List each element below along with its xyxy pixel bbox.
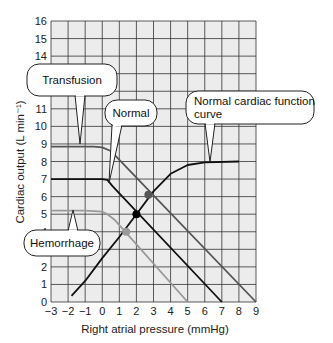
x-axis-ticks: −3−2−10123456789 (45, 305, 259, 317)
equilibrium-point-hemorrhage (122, 228, 130, 236)
y-tick-label: 7 (41, 173, 47, 185)
y-tick-label: 2 (41, 261, 47, 273)
callout-join (206, 122, 214, 125)
x-tick-label: 5 (185, 305, 191, 317)
x-tick-label: 3 (150, 305, 156, 317)
y-tick-label: 11 (36, 103, 47, 115)
x-tick-label: −1 (79, 305, 92, 317)
x-axis-label: Right atrial pressure (mmHg) (81, 323, 229, 335)
callout-text: Normal cardiac function (194, 95, 315, 107)
callout-join (113, 124, 121, 127)
y-tick-label: 5 (41, 208, 47, 220)
callout-join (76, 94, 84, 97)
x-tick-label: 6 (202, 305, 208, 317)
y-tick-label: 8 (41, 156, 47, 168)
x-tick-label: 9 (253, 305, 259, 317)
x-tick-label: 4 (168, 305, 174, 317)
y-tick-label: 9 (41, 138, 47, 150)
callout-join (69, 230, 77, 233)
equilibrium-point-transfusion (144, 191, 152, 199)
x-tick-label: 2 (133, 305, 139, 317)
y-axis-ticks: 012345678910111213141516 (35, 15, 47, 308)
equilibrium-point-normal (132, 210, 140, 218)
y-tick-label: 16 (35, 15, 47, 27)
x-tick-label: −2 (62, 305, 75, 317)
y-axis-label: Cardiac output (L min⁻¹) (14, 100, 26, 223)
callout-text: curve (194, 108, 222, 120)
x-tick-label: 1 (116, 305, 122, 317)
x-tick-label: 8 (236, 305, 242, 317)
cardiac-output-chart: 012345678910111213141516 −3−2−1012345678… (0, 0, 333, 343)
callout-text: Transfusion (42, 74, 102, 86)
y-tick-label: 15 (35, 33, 47, 45)
y-tick-label: 14 (35, 50, 47, 62)
x-tick-label: −3 (45, 305, 58, 317)
x-tick-label: 0 (99, 305, 105, 317)
x-tick-label: 7 (219, 305, 225, 317)
y-tick-label: 6 (41, 191, 47, 203)
y-tick-label: 10 (35, 120, 47, 132)
y-tick-label: 1 (41, 278, 47, 290)
callout-text: Hemorrhage (30, 237, 94, 249)
callout-text: Normal (112, 107, 149, 119)
